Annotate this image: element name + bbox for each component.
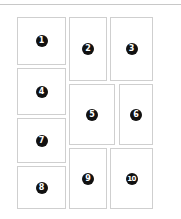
- number-badge-6: 6: [130, 109, 142, 121]
- panel-4: 4: [17, 68, 66, 115]
- panel-9: 9: [69, 148, 107, 209]
- number-badge-3: 3: [126, 43, 138, 55]
- number-badge-4: 4: [36, 86, 48, 98]
- number-badge-7: 7: [36, 135, 48, 147]
- number-badge-10: 10: [126, 173, 138, 185]
- number-badge-2: 2: [82, 43, 94, 55]
- number-badge-9: 9: [82, 173, 94, 185]
- panel-3: 3: [110, 17, 153, 81]
- number-badge-8: 8: [36, 182, 48, 194]
- panel-5: 5: [69, 84, 115, 145]
- panel-8: 8: [17, 166, 66, 209]
- number-badge-5: 5: [86, 109, 98, 121]
- top-divider: [0, 4, 181, 5]
- panel-6: 6: [119, 84, 153, 145]
- panel-10: 10: [110, 148, 153, 209]
- number-badge-1: 1: [36, 35, 48, 47]
- panel-1: 1: [17, 17, 66, 65]
- panel-2: 2: [69, 17, 107, 81]
- panel-7: 7: [17, 118, 66, 163]
